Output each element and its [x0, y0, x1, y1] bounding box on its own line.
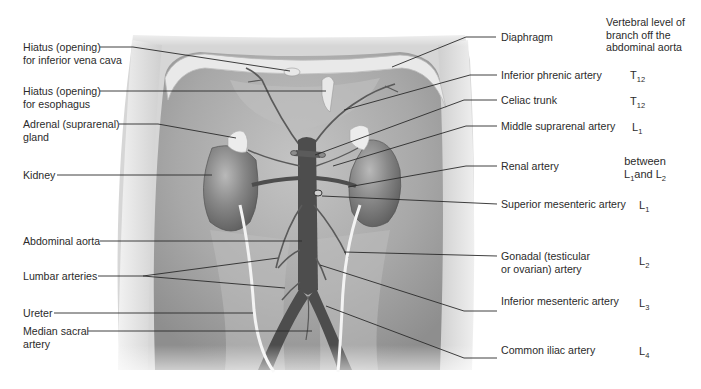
- header-line: branch off the: [606, 29, 685, 42]
- label-diaphragm: Diaphragm: [501, 31, 553, 44]
- label-inferior-phrenic-artery: Inferior phrenic artery: [501, 69, 602, 82]
- label-inferior-mesenteric-artery: Inferior mesenteric artery: [501, 295, 619, 308]
- label-line: Adrenal (suprarenal): [23, 118, 120, 131]
- label-line: Hiatus (opening): [23, 85, 101, 98]
- label-line: Middle suprarenal artery: [501, 120, 615, 133]
- aorta-diagram: Hiatus (opening) for inferior vena cava …: [0, 0, 701, 389]
- level-number: 1: [645, 205, 649, 214]
- label-line: or ovarian) artery: [501, 263, 590, 276]
- label-ureter: Ureter: [23, 307, 52, 320]
- label-renal-artery: Renal artery: [501, 160, 559, 173]
- label-line: Median sacral: [23, 325, 89, 338]
- label-line: Diaphragm: [501, 31, 553, 44]
- label-superior-mesenteric-artery: Superior mesenteric artery: [501, 198, 626, 211]
- label-line: Celiac trunk: [501, 94, 557, 107]
- kidney-left: [203, 146, 258, 231]
- label-line: Abdominal aorta: [23, 235, 100, 248]
- level-number: 12: [637, 75, 645, 84]
- label-line: Inferior phrenic artery: [501, 69, 602, 82]
- level-number: 4: [645, 351, 649, 360]
- label-gonadal-artery: Gonadal (testicular or ovarian) artery: [501, 250, 590, 276]
- level-number: 12: [637, 101, 645, 110]
- level-renal: between L1and L2: [624, 155, 666, 181]
- label-line: Superior mesenteric artery: [501, 198, 626, 211]
- level-inferior-phrenic: T12: [630, 69, 645, 82]
- label-line: Renal artery: [501, 160, 559, 173]
- label-line: Common iliac artery: [501, 344, 595, 357]
- ivc-hiatus: [284, 68, 300, 76]
- label-line: for inferior vena cava: [23, 54, 122, 67]
- level-range: L1and L2: [624, 168, 666, 181]
- level-common-iliac: L4: [639, 345, 649, 358]
- level-superior-mesenteric: L1: [639, 199, 649, 212]
- level-celiac-trunk: T12: [630, 95, 645, 108]
- label-line: Lumbar arteries: [23, 270, 97, 283]
- label-common-iliac-artery: Common iliac artery: [501, 344, 595, 357]
- label-adrenal-gland: Adrenal (suprarenal) gland: [23, 118, 120, 144]
- label-hiatus-ivc: Hiatus (opening) for inferior vena cava: [23, 41, 122, 67]
- label-celiac-trunk: Celiac trunk: [501, 94, 557, 107]
- label-line: Inferior mesenteric artery: [501, 295, 619, 308]
- label-lumbar-arteries: Lumbar arteries: [23, 270, 97, 283]
- level-number: 1: [638, 127, 642, 136]
- label-line: for esophagus: [23, 98, 101, 111]
- level-middle-suprarenal: L1: [632, 121, 642, 134]
- header-line: Vertebral level of: [606, 16, 685, 29]
- level-gonadal: L2: [639, 255, 649, 268]
- label-median-sacral-artery: Median sacral artery: [23, 325, 89, 351]
- label-hiatus-esophagus: Hiatus (opening) for esophagus: [23, 85, 101, 111]
- label-line: Kidney: [23, 169, 55, 182]
- label-middle-suprarenal-artery: Middle suprarenal artery: [501, 120, 615, 133]
- label-line: artery: [23, 338, 89, 351]
- level-number: 2: [645, 261, 649, 270]
- level-joiner: and: [634, 168, 652, 180]
- label-abdominal-aorta: Abdominal aorta: [23, 235, 100, 248]
- label-line: Hiatus (opening): [23, 41, 122, 54]
- label-line: gland: [23, 131, 120, 144]
- level-letter: T: [630, 95, 637, 107]
- label-line: Ureter: [23, 307, 52, 320]
- label-kidney: Kidney: [23, 169, 55, 182]
- level-letter: T: [630, 69, 637, 81]
- header-line: abdominal aorta: [606, 41, 685, 54]
- vertebral-level-header: Vertebral level of branch off the abdomi…: [606, 16, 685, 54]
- level-number: 3: [645, 303, 649, 312]
- label-line: Gonadal (testicular: [501, 250, 590, 263]
- level-inferior-mesenteric: L3: [639, 297, 649, 310]
- aorta: [298, 137, 318, 295]
- level-between: between: [624, 155, 666, 168]
- level-number: 2: [662, 174, 666, 183]
